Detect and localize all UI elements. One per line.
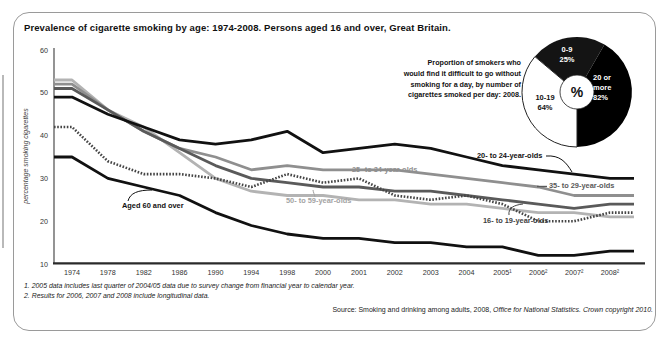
figure: Prevalence of cigarette smoking by age: … (0, 0, 669, 337)
y-tick-label: 10 (28, 260, 48, 269)
y-tick-label: 60 (28, 46, 48, 55)
source-note: Source: Smoking and drinking among adult… (332, 306, 653, 313)
chart-title: Prevalence of cigarette smoking by age: … (24, 22, 451, 33)
pie-caption: Proportion of smokers who would find it … (371, 58, 521, 101)
series-label-aged-60: Aged 60 and over (122, 201, 184, 210)
series-label-16-19: 16- to 19-year-olds (483, 216, 548, 225)
x-tick-label: 2008² (590, 268, 630, 277)
x-tick-label: 1978 (88, 268, 128, 277)
leader-aged-60-line (128, 190, 152, 201)
series-label-50-59: 50- to 59-year-olds (286, 196, 351, 205)
source-text: Source: Smoking and drinking among adult… (332, 306, 493, 313)
x-tick-label: 1998 (267, 268, 307, 277)
pie-slice-label-0-9: 0-9 25% (545, 45, 589, 65)
series-label-35-29: 35- to 29-year-olds (549, 181, 614, 190)
pie-center-label: % (557, 84, 597, 100)
leader-20-24-line (546, 156, 572, 172)
x-tick-label: 2001 (339, 268, 379, 277)
x-tick-label: 2002 (375, 268, 415, 277)
x-tick-label: 1986 (160, 268, 200, 277)
pie-slice-label-20-or-more: 20 or more 82% (593, 73, 629, 103)
x-tick-label: 2005¹ (482, 268, 522, 277)
x-tick-label: 2000 (303, 268, 343, 277)
footnotes: 1. 2005 data includes last quarter of 20… (24, 281, 355, 300)
x-tick-label: 1994 (231, 268, 271, 277)
y-tick-label: 20 (28, 217, 48, 226)
y-tick-label: 30 (28, 174, 48, 183)
y-tick-label: 40 (28, 131, 48, 140)
source-text-italic: Office for National Statistics. Crown co… (493, 306, 653, 313)
series-label-20-24: 20- to 24-year-olds (477, 151, 542, 160)
x-tick-label: 2006² (518, 268, 558, 277)
x-tick-label: 2004 (447, 268, 487, 277)
x-tick-label: 1974 (52, 268, 92, 277)
x-tick-label: 2003 (411, 268, 451, 277)
y-axis-title: percentage smoking cigarettes (22, 96, 34, 216)
x-tick-label: 1990 (195, 268, 235, 277)
x-tick-label: 1982 (124, 268, 164, 277)
x-tick-label: 2007² (554, 268, 594, 277)
series-label-25-34: 25- to 34-year-olds (352, 165, 417, 174)
y-tick-label: 50 (28, 88, 48, 97)
